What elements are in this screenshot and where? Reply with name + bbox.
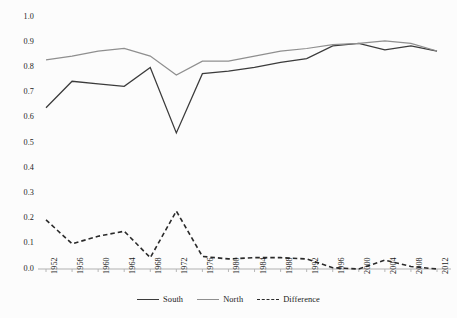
x-axis-tick-label: 1952: [50, 257, 59, 274]
y-axis-tick-label: 0.1: [8, 238, 34, 247]
y-axis-tick-label: 0.5: [8, 138, 34, 147]
y-axis-tick-label: 0.9: [8, 37, 34, 46]
legend-item-south: South: [137, 295, 183, 304]
x-axis-tick-label: 1984: [259, 257, 268, 274]
y-axis-tick-label: 0.3: [8, 188, 34, 197]
legend-label: North: [223, 295, 243, 304]
x-axis-tick-label: 1976: [206, 257, 215, 274]
x-axis-tick-label: 1992: [311, 257, 320, 274]
legend-label: South: [163, 295, 183, 304]
x-axis-tick-label: 2012: [441, 257, 450, 274]
legend-label: Difference: [283, 295, 320, 304]
legend-item-difference: Difference: [257, 295, 320, 304]
legend-swatch-difference-icon: [257, 299, 279, 300]
chart-legend: SouthNorthDifference: [0, 295, 457, 304]
legend-swatch-south-icon: [137, 299, 159, 300]
x-axis-tick-label: 1972: [180, 257, 189, 274]
series-layer: [46, 41, 437, 269]
y-axis-tick-label: 0.4: [8, 163, 34, 172]
chart-container: 0.00.10.20.30.40.50.60.70.80.91.0 195219…: [0, 0, 457, 318]
legend-swatch-north-icon: [197, 299, 219, 300]
series-line-south: [46, 43, 437, 132]
x-axis-tick-label: 1960: [102, 257, 111, 274]
y-axis-tick-label: 0.7: [8, 87, 34, 96]
x-axis-tick-label: 1988: [285, 257, 294, 274]
x-axis-tick-label: 1968: [154, 257, 163, 274]
y-axis-tick-label: 0.6: [8, 112, 34, 121]
x-axis-tick-label: 1980: [232, 257, 241, 274]
x-axis-tick-label: 2004: [389, 257, 398, 274]
x-axis-tick-label: 2008: [415, 257, 424, 274]
x-axis-tick-label: 1956: [76, 257, 85, 274]
y-axis-tick-label: 0.8: [8, 62, 34, 71]
y-axis-tick-label: 0.2: [8, 213, 34, 222]
x-axis-tick-label: 1964: [128, 257, 137, 274]
legend-item-north: North: [197, 295, 243, 304]
x-axis-tick-label: 1996: [337, 257, 346, 274]
y-axis-tick-label: 0.0: [8, 264, 34, 273]
x-axis-tick-label: 2000: [363, 257, 372, 274]
y-axis-tick-label: 1.0: [8, 12, 34, 21]
